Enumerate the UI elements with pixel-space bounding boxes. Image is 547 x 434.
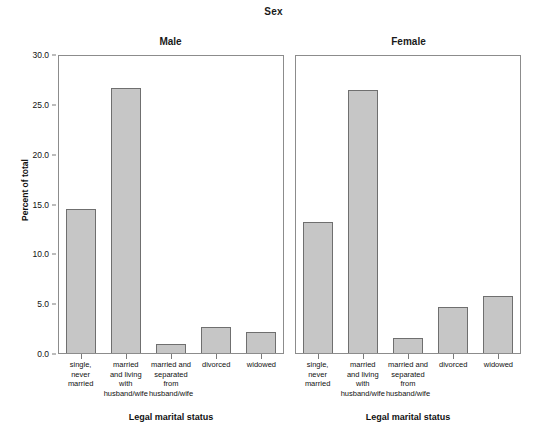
x-tick-label-line: with [340, 379, 385, 389]
x-tick-label: widowed [476, 360, 521, 370]
x-tick-label: single,nevermarried [58, 360, 103, 389]
x-tick-label-line: never [295, 370, 340, 380]
chart-root: Sex Male Female Percent of total 0.05.01… [0, 0, 547, 434]
y-tick-label: 25.0 [32, 100, 49, 110]
bar [66, 209, 96, 353]
x-tick-mark [81, 354, 82, 359]
y-tick-label: 15.0 [32, 200, 49, 210]
y-tick-mark [52, 304, 56, 305]
x-tick-label: marriedand livingwithhusband/wife [340, 360, 385, 398]
x-tick-mark [408, 354, 409, 359]
x-tick-label-line: husband/wife [385, 389, 430, 399]
x-axis-categories-male: single,nevermarriedmarriedand livingwith… [58, 360, 284, 408]
bar [111, 88, 141, 353]
x-tick-label-line: married and [148, 360, 193, 370]
bar [246, 332, 276, 353]
x-tick-label-line: single, [295, 360, 340, 370]
panel-title-male: Male [58, 36, 283, 47]
x-tick-label-line: married [340, 360, 385, 370]
x-tick-label: married andseparatedfromhusband/wife [148, 360, 193, 398]
y-tick-mark [52, 55, 56, 56]
x-tick-mark [453, 354, 454, 359]
x-tick-label-line: separated [148, 370, 193, 380]
x-tick-mark [261, 354, 262, 359]
x-tick-label: married andseparatedfromhusband/wife [385, 360, 430, 398]
plot-area-female [296, 56, 520, 353]
chart-title: Sex [0, 6, 547, 17]
bar-slot [238, 56, 283, 353]
bar [348, 90, 378, 353]
y-axis-ticks: 0.05.010.015.020.025.030.0 [0, 0, 58, 434]
y-tick-mark [52, 154, 56, 155]
y-tick-mark [52, 354, 56, 355]
bar-slot [475, 56, 520, 353]
x-tick-mark [498, 354, 499, 359]
plot-area-male [59, 56, 283, 353]
x-tick-label-line: married and [385, 360, 430, 370]
x-tick-label-line: married [58, 379, 103, 389]
x-tick-label-line: husband/wife [148, 389, 193, 399]
x-axis-categories-female: single,nevermarriedmarriedand livingwith… [295, 360, 521, 408]
x-tick-mark [171, 354, 172, 359]
x-tick-label-line: widowed [476, 360, 521, 370]
x-axis-ticks-male [58, 354, 284, 359]
x-axis-ticks-female [295, 354, 521, 359]
x-tick-label-line: married [103, 360, 148, 370]
y-tick-label: 30.0 [32, 50, 49, 60]
bar [483, 296, 513, 353]
bar [393, 338, 423, 353]
bar-slot [193, 56, 238, 353]
panel-female [295, 55, 521, 354]
x-tick-label-line: widowed [239, 360, 284, 370]
x-axis-label-female: Legal marital status [295, 412, 521, 422]
x-axis-label-male: Legal marital status [58, 412, 284, 422]
x-tick-label-line: from [148, 379, 193, 389]
x-tick-label-line: divorced [431, 360, 476, 370]
bar [438, 307, 468, 353]
x-tick-label-line: separated [385, 370, 430, 380]
x-tick-label-line: from [385, 379, 430, 389]
y-tick-mark [52, 204, 56, 205]
bar-slot [386, 56, 431, 353]
bar-slot [296, 56, 341, 353]
bar-slot [341, 56, 386, 353]
panel-title-female: Female [296, 36, 521, 47]
x-tick-label: divorced [431, 360, 476, 370]
x-tick-label-line: husband/wife [340, 389, 385, 399]
x-tick-label: widowed [239, 360, 284, 370]
panel-male [58, 55, 284, 354]
x-tick-label: single,nevermarried [295, 360, 340, 389]
bar-slot [430, 56, 475, 353]
x-tick-mark [363, 354, 364, 359]
x-tick-mark [318, 354, 319, 359]
y-tick-label: 10.0 [32, 249, 49, 259]
bar-slot [59, 56, 104, 353]
x-tick-label-line: never [58, 370, 103, 380]
x-tick-label-line: married [295, 379, 340, 389]
bar [303, 222, 333, 353]
bar [201, 327, 231, 353]
y-tick-label: 5.0 [37, 299, 49, 309]
x-tick-mark [126, 354, 127, 359]
bar [156, 344, 186, 353]
x-tick-label-line: single, [58, 360, 103, 370]
x-tick-label-line: divorced [194, 360, 239, 370]
x-tick-label: divorced [194, 360, 239, 370]
x-tick-label-line: with [103, 379, 148, 389]
bar-slot [149, 56, 194, 353]
x-tick-mark [216, 354, 217, 359]
x-tick-label-line: and living [340, 370, 385, 380]
y-tick-label: 20.0 [32, 150, 49, 160]
x-tick-label: marriedand livingwithhusband/wife [103, 360, 148, 398]
x-tick-label-line: husband/wife [103, 389, 148, 399]
y-tick-mark [52, 104, 56, 105]
y-tick-mark [52, 254, 56, 255]
x-tick-label-line: and living [103, 370, 148, 380]
bar-slot [104, 56, 149, 353]
y-tick-label: 0.0 [37, 349, 49, 359]
